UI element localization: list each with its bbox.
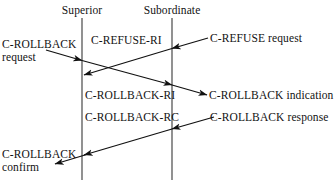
message-label-c-rollback-indication: C-ROLLBACK indication (209, 89, 333, 102)
message-label-c-rollback-ri: C-ROLLBACK-RI (85, 89, 175, 102)
message-label-c-refuse-ri: C-REFUSE-RI (91, 34, 162, 47)
message-label-c-rollback-rc: C-ROLLBACK-RC (85, 111, 179, 124)
message-label-line1: C-ROLLBACK (2, 148, 76, 161)
message-label-c-refuse-request: C-REFUSE request (210, 32, 302, 45)
message-label-line2: confirm (2, 161, 76, 174)
message-label-c-rollback-response: C-ROLLBACK response (210, 111, 329, 124)
lifeline-title-superior: Superior (62, 4, 102, 17)
arrow-c-rollback-rc (84, 129, 172, 155)
arrow-c-rollback-ri (82, 61, 172, 86)
sequence-diagram: Superior Subordinate C-ROLLBACK request … (0, 0, 335, 182)
message-label-c-rollback-confirm: C-ROLLBACK confirm (2, 148, 76, 174)
message-label-c-rollback-request: C-ROLLBACK request (2, 38, 76, 64)
arrow-c-rollback-indication (172, 85, 207, 95)
lifeline-title-subordinate: Subordinate (144, 4, 201, 17)
message-label-line1: C-ROLLBACK (2, 38, 76, 51)
arrow-c-refuse-ri (84, 49, 172, 76)
arrow-c-refuse-request (172, 38, 208, 49)
message-label-line2: request (2, 51, 76, 64)
